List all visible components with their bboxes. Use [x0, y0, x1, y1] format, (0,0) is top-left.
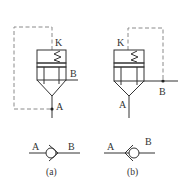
spring-chamber-a [37, 50, 66, 63]
check-valve-diagram: K B A K B A A B (a) A B (b) [0, 0, 191, 193]
poppet-body-b [114, 67, 144, 81]
spring-b-icon [131, 51, 138, 62]
valve-a-detailed [14, 27, 78, 118]
pilot-line-a [14, 27, 52, 109]
spring-chamber-b [114, 50, 144, 63]
caption-a: (a) [46, 167, 57, 178]
symbol-b-label-a: A [107, 141, 115, 152]
label-b-b: B [159, 86, 166, 97]
symbol-a-label-a: A [32, 141, 40, 152]
spring-a-icon [54, 51, 61, 62]
junction-dot-a [50, 107, 53, 110]
caption-b: (b) [127, 167, 138, 178]
symbol-b-label-b: B [145, 136, 152, 147]
label-k-a: K [55, 37, 63, 48]
label-b-a: B [70, 68, 77, 79]
poppet-cone-a [37, 80, 66, 96]
poppet-cone-b [114, 81, 144, 96]
label-a-a: A [56, 101, 64, 112]
poppet-body-a [37, 67, 66, 80]
label-k-b: K [117, 37, 125, 48]
piston-divider-b [114, 63, 144, 67]
label-a-b: A [119, 99, 127, 110]
ball-b-icon [129, 148, 139, 158]
piston-divider-a [37, 63, 66, 67]
junction-dot-b [161, 79, 164, 82]
symbol-a-label-b: B [68, 141, 75, 152]
